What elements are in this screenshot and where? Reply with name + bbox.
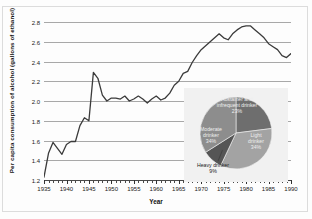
x-tick-minor [152, 180, 153, 183]
y-tick-label: 2.2 [32, 79, 40, 85]
x-tick-label: 1935 [37, 186, 50, 192]
x-tick-major [134, 180, 135, 184]
y-axis-title-text: Per capita consumption of alcohol (gallo… [9, 7, 16, 172]
chart-figure: Per capita consumption of alcohol (gallo… [0, 0, 312, 219]
x-tick-minor [49, 180, 50, 183]
x-tick-minor [161, 180, 162, 183]
x-tick-minor [125, 180, 126, 183]
x-tick-major [89, 180, 90, 184]
x-tick-minor [62, 180, 63, 183]
x-tick-major [67, 180, 68, 184]
y-tick-label: 1.6 [32, 139, 40, 145]
x-tick-minor [147, 180, 148, 183]
pie-chart-inset: Abstainer and infrequent drinker 23% Lig… [184, 88, 288, 182]
x-tick-major [291, 180, 292, 184]
pie-label-abstainer: Abstainer and infrequent drinker 23% [208, 96, 266, 115]
x-tick-label: 1955 [127, 186, 140, 192]
x-tick-label: 1965 [172, 186, 185, 192]
x-tick-minor [174, 180, 175, 183]
x-tick-minor [120, 180, 121, 183]
x-axis-title: Year [0, 198, 312, 205]
x-tick-label: 1985 [262, 186, 275, 192]
y-tick-label: 2.0 [32, 99, 40, 105]
x-tick-minor [84, 180, 85, 183]
y-tick-label: 2.4 [32, 60, 40, 66]
x-tick-major [156, 180, 157, 184]
y-tick-label: 2.8 [32, 20, 40, 26]
pie-label-heavy-drinker: Heavy drinker 9% [182, 162, 244, 174]
x-tick-minor [107, 180, 108, 183]
x-tick-major [44, 180, 45, 184]
x-tick-major [179, 180, 180, 184]
x-tick-minor [75, 180, 76, 183]
x-tick-minor [71, 180, 72, 183]
x-tick-label: 1945 [82, 186, 95, 192]
x-tick-minor [129, 180, 130, 183]
y-tick-label: 2.6 [32, 40, 40, 46]
x-tick-label: 1940 [60, 186, 73, 192]
pie-label-moderate-drinker: Moderate drinker 34% [194, 126, 228, 145]
x-tick-label: 1970 [194, 186, 207, 192]
x-tick-minor [143, 180, 144, 183]
x-tick-label: 1990 [284, 186, 297, 192]
x-tick-minor [165, 180, 166, 183]
x-tick-minor [80, 180, 81, 183]
x-tick-label: 1950 [105, 186, 118, 192]
x-tick-minor [116, 180, 117, 183]
x-tick-minor [170, 180, 171, 183]
x-tick-minor [98, 180, 99, 183]
x-tick-minor [53, 180, 54, 183]
y-axis-title: Per capita consumption of alcohol (gallo… [6, 0, 18, 180]
x-tick-label: 1975 [217, 186, 230, 192]
y-tick-label: 1.8 [32, 119, 40, 125]
x-tick-minor [102, 180, 103, 183]
pie-label-light-drinker: Light drinker 34% [240, 132, 272, 151]
y-tick-label: 1.2 [32, 178, 40, 184]
y-tick-label: 1.4 [32, 158, 40, 164]
x-tick-label: 1960 [150, 186, 163, 192]
x-tick-minor [58, 180, 59, 183]
x-tick-label: 1980 [239, 186, 252, 192]
x-tick-major [111, 180, 112, 184]
x-tick-minor [93, 180, 94, 183]
x-tick-minor [138, 180, 139, 183]
